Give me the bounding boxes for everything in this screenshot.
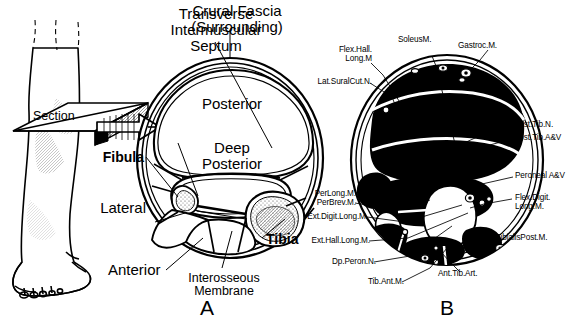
label-gastrocnemius-muscle: Gastroc.M. bbox=[458, 42, 497, 51]
label-interosseous-membrane: Interosseous Membrane bbox=[178, 272, 270, 298]
label-peroneal-artery-and-vein: Peroneal A&V bbox=[515, 172, 565, 181]
label-extensor-hallucis-longus: Ext.Hall.Long.M. bbox=[286, 237, 370, 246]
panel-letter-b: B bbox=[440, 297, 454, 319]
label-flexor-hallucis-longus: Flex.Hall. Long.M bbox=[300, 46, 372, 63]
panel-letter-a: A bbox=[200, 297, 214, 319]
label-soleus-muscle: SoleusM. bbox=[398, 36, 431, 45]
label-tibialis-posterior-muscle: TibialisPost.M. bbox=[496, 234, 547, 243]
label-anterior-tibial-artery: Ant.Tib.Art. bbox=[438, 270, 477, 279]
label-posterior-tibial-artery-and-vein: Post.Tib.A&V bbox=[514, 134, 561, 143]
section-plane-label: Section bbox=[33, 110, 75, 123]
label-deep-posterior-compartment: Deep Posterior bbox=[190, 140, 274, 172]
label-fibula: Fibula bbox=[56, 150, 144, 165]
label-posterior-tibial-nerve: Post.Tib.N. bbox=[514, 121, 553, 130]
label-deep-peroneal-nerve: Dp.Peron.N. bbox=[312, 258, 376, 267]
label-anterior-compartment: Anterior bbox=[108, 262, 161, 278]
anatomy-figure: Section Transverse Intermuscular Septum … bbox=[0, 0, 578, 331]
label-lateral-compartment: Lateral bbox=[56, 200, 146, 216]
label-tibialis-anterior-muscle: Tib.Ant.M. bbox=[344, 278, 404, 287]
label-posterior-compartment: Posterior bbox=[186, 96, 278, 112]
label-crural-fascia: Crural Fascia (Surrounding) bbox=[182, 3, 292, 35]
label-extensor-digitorum-longus: Ext.Digit.Long.M. bbox=[282, 213, 368, 222]
label-flexor-digitorum-longus: Flex.Digit. Long.M. bbox=[515, 194, 550, 211]
label-peroneus-brevis: PerBrev.M. bbox=[290, 199, 356, 208]
label-lateral-sural-cutaneous-nerve: Lat.SuralCut.N. bbox=[292, 78, 372, 87]
